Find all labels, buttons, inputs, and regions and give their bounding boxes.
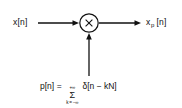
input-arrow <box>38 20 79 26</box>
equation-equals-sign: = <box>57 82 64 91</box>
equation-lhs: p[n] <box>40 82 57 91</box>
output-signal-label: xp[n] <box>146 18 167 27</box>
output-arrow <box>99 20 141 26</box>
output-subscript: p <box>150 22 155 28</box>
sigma-icon: Σ <box>70 91 76 100</box>
equation-rhs: δ[n − kN] <box>80 82 116 91</box>
output-bracket: [n] <box>155 17 167 27</box>
block-diagram-figure: x[n] xp[n] p[n] = +∞ Σ k = −∞ δ[n − kN] <box>0 0 182 108</box>
summation-operator: +∞ Σ k = −∞ <box>64 86 80 105</box>
impulse-train-arrow <box>86 33 92 76</box>
input-signal-label: x[n] <box>13 18 28 27</box>
impulse-train-equation: p[n] = +∞ Σ k = −∞ δ[n − kN] <box>40 82 117 105</box>
multiplier-node <box>80 14 98 32</box>
summation-lower-limit: k = −∞ <box>66 101 78 106</box>
